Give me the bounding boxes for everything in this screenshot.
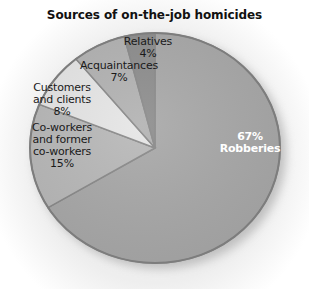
label-acquaintances: Acquaintances 7% [69,60,169,84]
label-relatives: Relatives 4% [108,36,188,60]
label-coworkers: Co-workers and former co-workers 15% [22,122,102,170]
label-customers: Customers and clients 8% [22,82,102,118]
label-robberies: 67% Robberies [205,131,295,155]
chart-title: Sources of on-the-job homicides [0,8,309,22]
